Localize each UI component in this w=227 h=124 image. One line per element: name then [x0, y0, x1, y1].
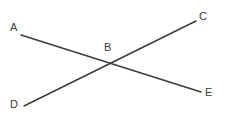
point-label-b: B — [104, 42, 111, 53]
point-label-c: C — [199, 11, 207, 22]
point-label-e: E — [205, 87, 212, 98]
point-label-d: D — [10, 99, 18, 110]
point-label-a: A — [10, 22, 17, 33]
geometry-figure: A B C D E — [0, 0, 227, 124]
line-diagram-canvas — [0, 0, 227, 124]
